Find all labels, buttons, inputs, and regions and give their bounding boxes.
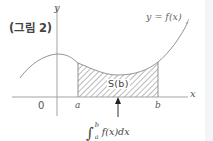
origin-label: 0: [38, 101, 44, 111]
curve-label: y = f(x): [146, 12, 182, 22]
hatched-area: [78, 50, 158, 97]
integral-upper-limit: b: [95, 122, 99, 129]
integrand: f(x)dx: [102, 126, 130, 137]
figure-title: (그림 2): [9, 23, 52, 35]
area-label: S(b): [107, 79, 130, 89]
point-a-label: a: [75, 101, 80, 110]
integral-lower-limit: a: [95, 134, 99, 141]
point-b-label: b: [155, 101, 161, 110]
integral-sign-icon: ∫: [86, 124, 94, 141]
integral-area-diagram: (그림 2) y x 0 a b y = f(x) S(b) ∫baf(x)dx: [0, 0, 213, 141]
integral-expression: ∫baf(x)dx: [86, 126, 130, 141]
x-axis-label: x: [190, 89, 196, 99]
arrow-up-icon: [115, 97, 121, 117]
y-axis-label: y: [54, 3, 60, 13]
